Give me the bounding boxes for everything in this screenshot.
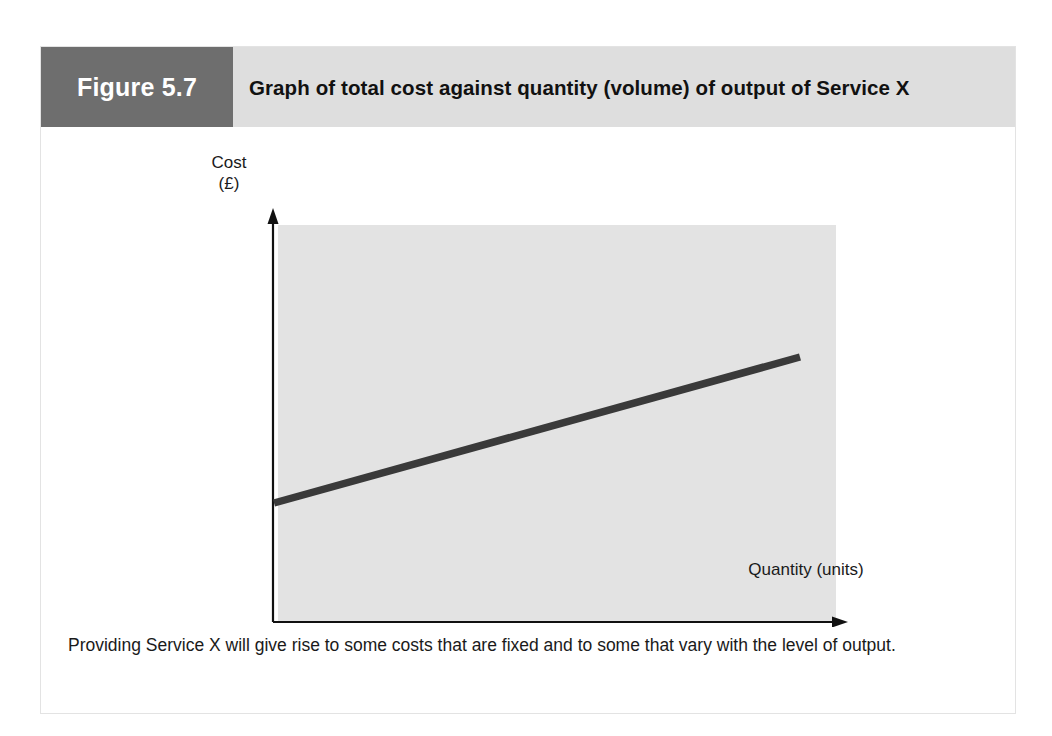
figure-number-label: Figure 5.7 <box>77 73 197 102</box>
figure-caption: Providing Service X will give rise to so… <box>68 632 968 659</box>
x-axis-label: Quantity (units) <box>691 559 921 580</box>
figure-number-block: Figure 5.7 <box>41 47 233 127</box>
figure-title: Graph of total cost against quantity (vo… <box>249 75 910 100</box>
y-axis-label: Cost (£) <box>193 152 265 194</box>
figure-container: Figure 5.7 Graph of total cost against q… <box>40 46 1016 714</box>
figure-title-container: Graph of total cost against quantity (vo… <box>233 47 1015 127</box>
line-chart <box>41 127 1015 627</box>
x-axis-arrow-icon <box>832 617 848 628</box>
chart-region: Cost (£) Quantity (units) <box>41 127 1015 627</box>
figure-header-band: Figure 5.7 Graph of total cost against q… <box>41 47 1015 127</box>
y-axis-arrow-icon <box>268 208 279 224</box>
